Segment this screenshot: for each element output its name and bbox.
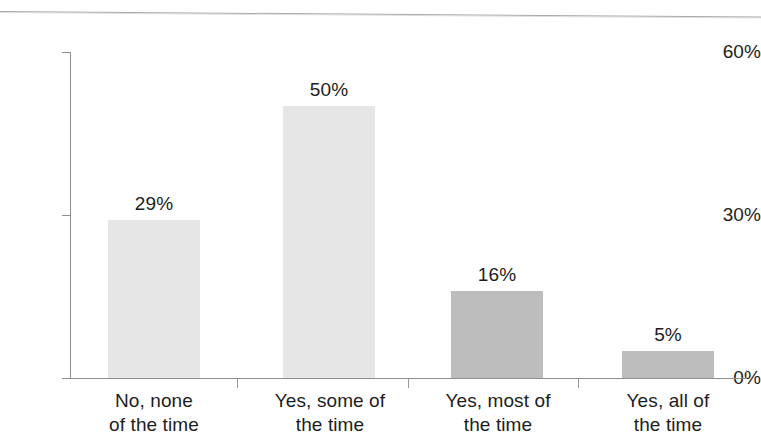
x-axis-category-label-3: Yes, most of the time bbox=[424, 389, 572, 437]
bar-value-label-4: 5% bbox=[622, 324, 714, 346]
category-label-line1: Yes, all of bbox=[596, 389, 740, 413]
bar-value-label-1: 29% bbox=[108, 193, 200, 215]
x-axis-category-label-1: No, none of the time bbox=[84, 389, 224, 437]
bar-fill bbox=[451, 291, 543, 378]
bar-yes-all-of-the-time[interactable] bbox=[622, 351, 714, 378]
category-label-line2: the time bbox=[255, 413, 405, 437]
bar-yes-most-of-the-time[interactable] bbox=[451, 291, 543, 378]
category-label-line1: Yes, most of bbox=[424, 389, 572, 413]
category-label-line2: of the time bbox=[84, 413, 224, 437]
x-axis-tick-2 bbox=[408, 379, 409, 388]
bar-value-label-2: 50% bbox=[283, 79, 375, 101]
bar-fill bbox=[283, 106, 375, 378]
x-axis-category-label-2: Yes, some of the time bbox=[255, 389, 405, 437]
category-label-line1: Yes, some of bbox=[255, 389, 405, 413]
x-axis-tick-1 bbox=[237, 379, 238, 388]
x-axis-category-label-4: Yes, all of the time bbox=[596, 389, 740, 437]
category-label-line2: the time bbox=[424, 413, 572, 437]
bar-chart: 60% 30% 0% 29% 50% 16% 5% No, none of th… bbox=[0, 0, 761, 437]
bar-fill bbox=[108, 220, 200, 378]
bar-value-label-3: 16% bbox=[451, 264, 543, 286]
bar-fill bbox=[622, 351, 714, 378]
category-label-line1: No, none bbox=[84, 389, 224, 413]
category-label-line2: the time bbox=[596, 413, 740, 437]
bar-yes-some-of-the-time[interactable] bbox=[283, 106, 375, 378]
bar-no-none-of-the-time[interactable] bbox=[108, 220, 200, 378]
x-axis-tick-3 bbox=[578, 379, 579, 388]
